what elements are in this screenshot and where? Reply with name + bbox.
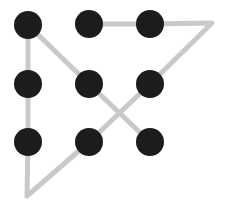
pattern-dot-2[interactable] xyxy=(75,10,103,38)
pattern-dot-4[interactable] xyxy=(14,70,42,98)
pattern-dot-1[interactable] xyxy=(14,11,42,39)
pattern-dot-6[interactable] xyxy=(136,70,164,98)
pattern-lock-screen[interactable] xyxy=(0,0,229,215)
pattern-dot-3[interactable] xyxy=(136,10,164,38)
pattern-dot-9[interactable] xyxy=(136,128,164,156)
pattern-lock-canvas[interactable] xyxy=(0,0,229,215)
pattern-dot-group[interactable] xyxy=(14,10,164,156)
pattern-dot-7[interactable] xyxy=(14,128,42,156)
pattern-dot-5[interactable] xyxy=(75,70,103,98)
pattern-dot-8[interactable] xyxy=(75,128,103,156)
